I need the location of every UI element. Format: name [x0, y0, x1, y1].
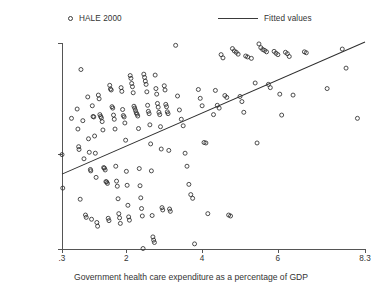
scatter-chart: HALE 2000 Fitted values HALE 2000 Govern…: [0, 0, 382, 290]
x-tick-label: 4: [200, 254, 205, 263]
x-tick-label: 8.3: [359, 254, 370, 263]
legend-item-hale-2000: HALE 2000: [68, 11, 122, 25]
x-tick: [202, 249, 203, 253]
x-axis-title: Government health care expenditure as a …: [0, 272, 382, 282]
x-axis-line: [62, 249, 366, 250]
x-tick: [126, 249, 127, 253]
y-tick: [58, 43, 62, 44]
legend-label-fitted-values: Fitted values: [264, 14, 312, 23]
x-tick-label: 2: [124, 254, 129, 263]
line-marker-icon: [218, 18, 258, 19]
plot-area: [62, 43, 365, 249]
chart-legend: HALE 2000 Fitted values: [0, 8, 382, 28]
y-tick: [58, 154, 62, 155]
legend-label-hale-2000: HALE 2000: [79, 14, 122, 23]
circle-marker-icon: [68, 16, 73, 21]
x-tick: [62, 249, 63, 253]
legend-item-fitted-values: Fitted values: [218, 11, 312, 25]
x-tick-label: .3: [59, 254, 66, 263]
x-tick: [278, 249, 279, 253]
x-tick: [365, 249, 366, 253]
x-tick-label: 6: [276, 254, 281, 263]
